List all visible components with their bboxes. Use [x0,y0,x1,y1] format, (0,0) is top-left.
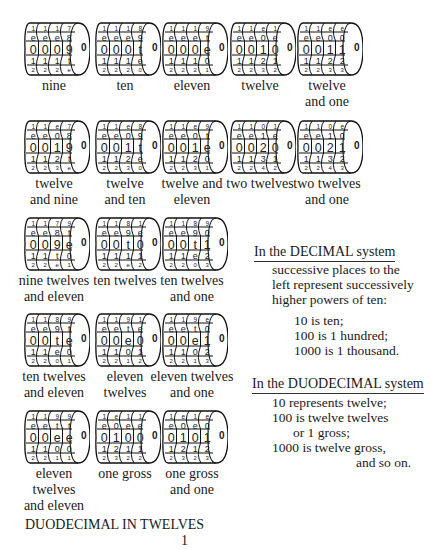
decimal-example-3: 1000 is 1 thousand. [294,343,399,359]
drum-wheel: 1e012 [122,413,135,461]
drum-wheel: e0123 [324,25,337,73]
wheel-digit: 0 [189,348,202,357]
drum-hub-icon: 0 [152,140,158,151]
wheel-digit: 8 [63,34,76,43]
wheel-digit: e [269,34,282,43]
wheel-digit: 2 [27,455,40,461]
drum-wheel: 9te01 [63,413,76,461]
wheel-digit-current: 1 [336,44,349,57]
drum-wheel: 1e012 [110,316,123,364]
drum-wheel: e0123 [336,25,349,73]
wheel-digit-current: e [63,432,76,445]
odometer-drum: 1e0121e012e01239te010 [162,120,228,174]
wheel-digit: 2 [122,155,135,164]
wheel-digit: e [98,132,111,141]
wheel-digit: 1 [110,124,123,131]
wheel-digit: 1 [300,57,313,66]
wheel-digit: 1 [98,124,111,131]
wheel-digit: 1 [189,414,202,421]
odometer-label: twelveand one [282,78,372,110]
wheel-digit: 2 [336,155,349,164]
duodecimal-heading: In the DUODECIMAL system [252,376,424,394]
wheel-digit: 3 [51,165,64,171]
drum-wheel: 1e012 [300,25,313,73]
wheel-digit: 2 [324,57,337,66]
drum-wheel: 1e012 [98,123,111,171]
drum-hub-icon: 0 [81,42,87,53]
wheel-digit: e [165,422,178,431]
drum-wheel: 1e012 [269,25,282,73]
odometer-label-line: and one [147,289,237,305]
drum-wheel: 1e012 [134,413,147,461]
wheel-digit-current: t [134,142,147,155]
wheel-digit-current: 0 [98,335,111,348]
wheel-digit: 2 [165,455,178,461]
wheel-digit: 9 [51,414,64,421]
wheel-digit-current: 0 [269,142,282,155]
wheel-digit: 2 [110,445,123,454]
wheel-digit: 1 [122,26,135,33]
wheel-digit-current: 9 [51,239,64,252]
wheel-digit: 1 [300,155,313,164]
wheel-digit: 1 [134,445,147,454]
wheel-digit: 2 [201,252,214,261]
wheel-digit: 1 [177,221,190,228]
wheel-digit-current: 0 [177,239,190,252]
wheel-digit: 1 [177,155,190,164]
odometer-drum: 1e012e01231e012e01230 [162,410,228,464]
wheel-digit: 3 [122,165,135,171]
wheel-digit: e [39,132,52,141]
wheel-digit: t [63,422,76,431]
wheel-digit-current: 0 [189,432,202,445]
wheel-digit: 2 [27,67,40,73]
wheel-digit: e [177,132,190,141]
drum-wheel: 1e012 [177,123,190,171]
drum-wheel: 1e012 [300,123,313,171]
decimal-line-2: left represent successively [272,277,414,293]
wheel-digit-current: 0 [300,44,313,57]
drum-wheel: e0123 [336,123,349,171]
wheel-digit: 1 [177,124,190,131]
wheel-digit-current: 0 [51,44,64,57]
wheel-digit: e [39,34,52,43]
wheel-digit: 1 [269,155,282,164]
wheel-digit: e [98,325,111,334]
wheel-digit: e [51,262,64,268]
wheel-digit: 1 [98,221,111,228]
wheel-digit-current: t [51,335,64,348]
wheel-digit-current: e [63,239,76,252]
drum-wheel: 1e012 [98,316,111,364]
wheel-digit: 8 [51,229,64,238]
wheel-digit: 3 [257,155,270,164]
wheel-digit: t [51,252,64,261]
odometer-label-line: two twelves [282,176,372,192]
drum-wheel: 1e012 [39,220,52,268]
decimal-heading: In the DECIMAL system [254,244,395,262]
drum-wheel: 1e012 [27,123,40,171]
odometer-drum: 1e012e01231e0121e0120 [95,410,161,464]
drum-hub-icon: 0 [152,430,158,441]
odometer-label-line: eleven [147,192,237,208]
wheel-digit: 2 [312,165,325,171]
wheel-digit: e [27,422,40,431]
wheel-digit: 2 [165,165,178,171]
wheel-digit: 2 [39,165,52,171]
wheel-digit: 2 [39,262,52,268]
wheel-digit: 1 [269,124,282,131]
wheel-digit: 1 [134,348,147,357]
wheel-digit: 3 [324,155,337,164]
drum-wheel: 1e012 [98,413,111,461]
drum-wheel: e0123 [122,123,135,171]
wheel-digit-current: 0 [39,239,52,252]
wheel-digit: 4 [257,165,270,171]
wheel-digit: 8 [189,221,202,228]
wheel-digit: e [165,34,178,43]
wheel-digit: 1 [312,57,325,66]
wheel-digit: 1 [98,57,111,66]
wheel-digit: 3 [201,262,214,268]
wheel-digit-current: e [201,44,214,57]
wheel-digit: 0 [257,124,270,131]
wheel-digit: e [300,34,313,43]
drum-hub-icon: 0 [287,140,293,151]
odometer-label-line: and eleven [9,498,99,514]
